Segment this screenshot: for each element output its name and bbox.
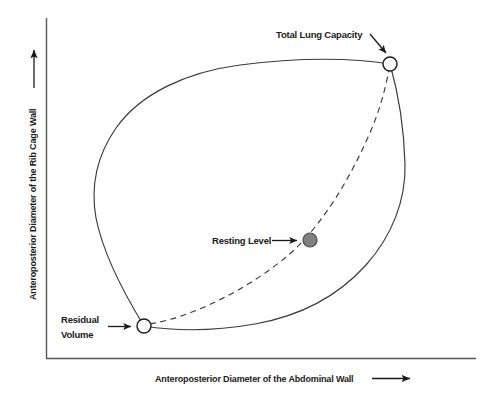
- total-lung-capacity-label: Total Lung Capacity: [276, 29, 363, 40]
- resting-level-label: Resting Level: [212, 235, 271, 246]
- x-axis-label: Anteroposterior Diameter of the Abdomina…: [155, 374, 353, 384]
- residual-volume-label-line-2: Volume: [61, 329, 93, 340]
- konno-mead-diagram: Anteroposterior Diameter of the Rib Cage…: [0, 0, 504, 395]
- total-lung-capacity-marker: [383, 57, 397, 71]
- residual-volume-marker: [137, 319, 151, 333]
- residual-volume-label-line-1: Residual: [61, 314, 99, 325]
- y-axis-label: Anteroposterior Diameter of the Rib Cage…: [28, 109, 38, 300]
- resting-level-marker: [303, 233, 317, 247]
